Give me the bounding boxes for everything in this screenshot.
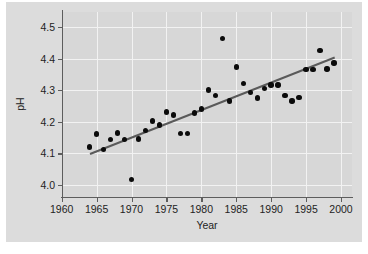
y-tick-label: 4.1 bbox=[40, 147, 55, 159]
data-point bbox=[241, 81, 246, 86]
data-point bbox=[303, 67, 308, 72]
data-point bbox=[220, 36, 225, 41]
x-tick-mark bbox=[132, 198, 133, 202]
data-point bbox=[150, 118, 155, 123]
y-axis-line bbox=[62, 10, 63, 199]
gridline-horizontal bbox=[63, 153, 352, 154]
data-point bbox=[164, 109, 169, 114]
data-point bbox=[227, 98, 232, 103]
data-point bbox=[157, 122, 162, 127]
data-point bbox=[129, 177, 134, 182]
x-tick-label: 1985 bbox=[225, 203, 248, 215]
data-point bbox=[94, 131, 99, 136]
x-tick-mark bbox=[236, 198, 237, 202]
gridline-vertical bbox=[306, 12, 307, 197]
x-axis-line bbox=[61, 197, 353, 198]
data-point bbox=[255, 95, 260, 100]
y-tick-mark bbox=[58, 153, 62, 154]
gridline-horizontal bbox=[63, 27, 352, 28]
plot-panel bbox=[63, 12, 352, 197]
data-point bbox=[122, 137, 127, 142]
data-point bbox=[289, 98, 294, 103]
x-tick-mark bbox=[166, 198, 167, 202]
data-point bbox=[310, 67, 315, 72]
gridline-vertical bbox=[132, 12, 133, 197]
data-point bbox=[275, 82, 280, 87]
data-point bbox=[234, 64, 239, 69]
y-tick-label: 4.2 bbox=[40, 116, 55, 128]
x-tick-label: 1965 bbox=[85, 203, 108, 215]
data-point bbox=[192, 110, 197, 115]
data-point bbox=[178, 131, 183, 136]
y-axis-title: pH bbox=[14, 97, 26, 110]
x-tick-label: 1990 bbox=[259, 203, 282, 215]
data-point bbox=[185, 131, 190, 136]
x-tick-mark bbox=[271, 198, 272, 202]
x-tick-mark bbox=[97, 198, 98, 202]
data-point bbox=[136, 136, 141, 141]
y-tick-mark bbox=[58, 27, 62, 28]
x-tick-mark bbox=[306, 198, 307, 202]
gridline-vertical bbox=[201, 12, 202, 197]
y-tick-label: 4.0 bbox=[40, 179, 55, 191]
y-tick-mark bbox=[58, 122, 62, 123]
data-point bbox=[199, 106, 204, 111]
gridline-vertical bbox=[97, 12, 98, 197]
y-tick-label: 4.4 bbox=[40, 53, 55, 65]
x-tick-label: 2000 bbox=[329, 203, 352, 215]
data-point bbox=[101, 147, 106, 152]
gridline-vertical bbox=[166, 12, 167, 197]
data-point bbox=[296, 95, 301, 100]
x-tick-mark bbox=[62, 198, 63, 202]
y-tick-mark bbox=[58, 90, 62, 91]
data-point bbox=[248, 90, 253, 95]
gridline-horizontal bbox=[63, 185, 352, 186]
y-tick-label: 4.3 bbox=[40, 84, 55, 96]
x-tick-label: 1960 bbox=[50, 203, 73, 215]
data-point bbox=[331, 60, 336, 65]
gridline-horizontal bbox=[63, 59, 352, 60]
gridline-horizontal bbox=[63, 122, 352, 123]
data-point bbox=[324, 66, 329, 71]
x-tick-mark bbox=[201, 198, 202, 202]
x-tick-mark bbox=[341, 198, 342, 202]
y-tick-label: 4.5 bbox=[40, 21, 55, 33]
x-tick-label: 1970 bbox=[120, 203, 143, 215]
data-point bbox=[206, 87, 211, 92]
gridline-vertical bbox=[271, 12, 272, 197]
x-axis-title: Year bbox=[196, 219, 217, 231]
data-point bbox=[268, 82, 273, 87]
data-point bbox=[87, 144, 92, 149]
gridline-vertical bbox=[236, 12, 237, 197]
data-point bbox=[317, 48, 322, 53]
data-point bbox=[115, 130, 120, 135]
data-point bbox=[282, 93, 287, 98]
data-point bbox=[171, 112, 176, 117]
x-tick-label: 1975 bbox=[155, 203, 178, 215]
scatter-plot-chart: 4.04.14.24.34.44.5 196019651970197519801… bbox=[0, 0, 368, 254]
gridline-vertical bbox=[341, 12, 342, 197]
y-tick-mark bbox=[58, 185, 62, 186]
x-tick-label: 1995 bbox=[294, 203, 317, 215]
data-point bbox=[213, 93, 218, 98]
data-point bbox=[143, 128, 148, 133]
data-point bbox=[108, 137, 113, 142]
x-tick-label: 1980 bbox=[190, 203, 213, 215]
y-tick-mark bbox=[58, 59, 62, 60]
